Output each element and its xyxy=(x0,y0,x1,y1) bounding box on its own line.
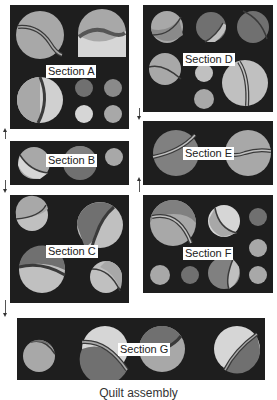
arrow-down-b-c xyxy=(5,180,6,190)
section-a-label: Section A xyxy=(46,65,96,78)
section-c-panel: Section C xyxy=(10,195,129,303)
section-b-label: Section B xyxy=(46,154,97,167)
section-f-circles xyxy=(143,195,273,293)
section-f-panel: Section F xyxy=(143,195,273,293)
diagram-caption: Quilt assembly xyxy=(0,386,277,400)
section-f-label: Section F xyxy=(183,247,233,260)
arrow-up-e-f xyxy=(139,180,140,192)
arrow-up-a-b xyxy=(5,131,6,139)
section-d-panel: Section D xyxy=(143,5,273,112)
arrow-down-c-g xyxy=(5,300,6,314)
arrow-down-d-e xyxy=(139,108,140,117)
section-b-panel: Section B xyxy=(10,141,129,185)
section-a-panel: Section A xyxy=(10,5,129,129)
section-g-panel: Section G xyxy=(17,318,265,380)
section-e-label: Section E xyxy=(183,147,234,160)
section-g-label: Section G xyxy=(118,343,170,356)
section-d-label: Section D xyxy=(183,53,235,66)
section-c-label: Section C xyxy=(46,245,98,258)
section-e-panel: Section E xyxy=(143,121,273,185)
